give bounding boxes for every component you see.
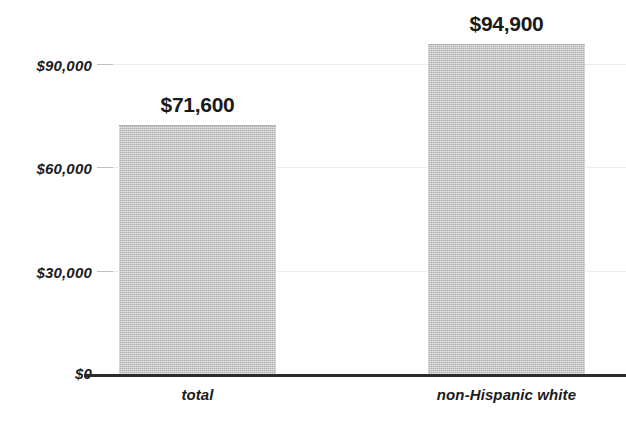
bar-total — [119, 125, 276, 376]
plot-area: $90,000 $60,000 $30,000 $0 $71,600 total… — [0, 0, 626, 426]
tick-stub-90000 — [97, 64, 113, 65]
y-axis-tick-label-90000: $90,000 — [36, 57, 92, 74]
bar-value-label-total: $71,600 — [119, 93, 276, 117]
bar-value-label-non-hispanic-white: $94,900 — [428, 12, 585, 36]
x-axis-baseline — [84, 374, 626, 377]
y-axis-tick-label-30000: $30,000 — [36, 264, 92, 281]
bar-non-hispanic-white — [428, 44, 585, 376]
tick-stub-60000 — [97, 167, 113, 168]
bar-chart: $90,000 $60,000 $30,000 $0 $71,600 total… — [0, 0, 626, 426]
y-axis-tick-label-0: $0 — [75, 365, 92, 382]
category-label-total: total — [119, 386, 276, 403]
y-axis-tick-label-60000: $60,000 — [36, 160, 92, 177]
tick-stub-30000 — [97, 271, 113, 272]
category-label-non-hispanic-white: non-Hispanic white — [418, 386, 595, 403]
